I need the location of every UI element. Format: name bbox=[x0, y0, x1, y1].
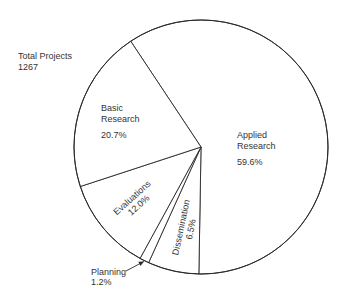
slice-name-planning: Planning bbox=[91, 267, 126, 277]
slice-name-applied-research-line-1: Applied bbox=[237, 130, 267, 140]
slice-value-planning: 1.2% bbox=[91, 277, 112, 287]
slice-label-planning: Planning1.2% bbox=[91, 267, 126, 287]
slice-name-basic-research-line-2: Research bbox=[101, 114, 140, 124]
slice-value-applied-research: 59.6% bbox=[237, 157, 263, 167]
planning-callout bbox=[126, 262, 144, 271]
slice-name-basic-research-line-1: Basic bbox=[101, 103, 124, 113]
pie-chart: AppliedResearch59.6%Dissemination6.5%Pla… bbox=[0, 0, 345, 298]
slice-name-applied-research-line-2: Research bbox=[237, 141, 276, 151]
pie-slices bbox=[74, 20, 328, 274]
slice-value-basic-research: 20.7% bbox=[101, 130, 127, 140]
